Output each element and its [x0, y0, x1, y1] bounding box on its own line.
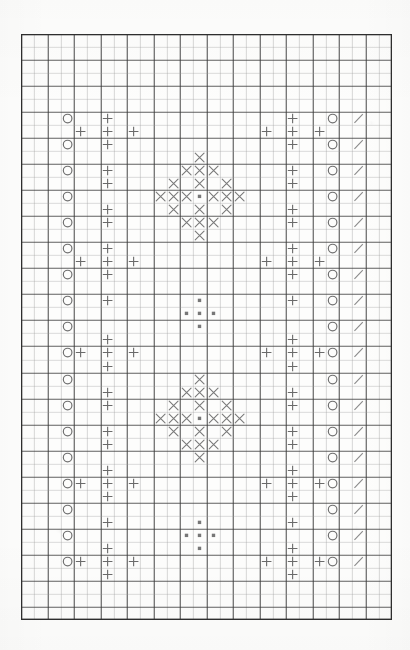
cross-symbol-cell[interactable]: [220, 203, 233, 216]
cross-symbol-cell[interactable]: [220, 177, 233, 190]
dot-symbol-cell[interactable]: [193, 190, 206, 203]
circle-symbol-cell[interactable]: [326, 164, 339, 177]
cross-symbol-cell[interactable]: [167, 203, 180, 216]
cross-symbol-cell[interactable]: [233, 190, 246, 203]
slash-symbol-cell[interactable]: [352, 242, 365, 255]
plus-symbol-cell[interactable]: [286, 242, 299, 255]
circle-symbol-cell[interactable]: [61, 294, 74, 307]
plus-symbol-cell[interactable]: [313, 477, 326, 490]
plus-symbol-cell[interactable]: [286, 177, 299, 190]
circle-symbol-cell[interactable]: [61, 190, 74, 203]
dot-symbol-cell[interactable]: [193, 294, 206, 307]
slash-symbol-cell[interactable]: [352, 373, 365, 386]
slash-symbol-cell[interactable]: [352, 503, 365, 516]
circle-symbol-cell[interactable]: [326, 399, 339, 412]
cross-symbol-cell[interactable]: [193, 386, 206, 399]
slash-symbol-cell[interactable]: [352, 399, 365, 412]
plus-symbol-cell[interactable]: [74, 255, 87, 268]
circle-symbol-cell[interactable]: [61, 112, 74, 125]
cross-symbol-cell[interactable]: [193, 229, 206, 242]
cross-symbol-cell[interactable]: [193, 216, 206, 229]
plus-symbol-cell[interactable]: [74, 477, 87, 490]
plus-symbol-cell[interactable]: [286, 268, 299, 281]
cross-symbol-cell[interactable]: [207, 412, 220, 425]
cross-symbol-cell[interactable]: [167, 399, 180, 412]
dot-symbol-cell[interactable]: [207, 529, 220, 542]
plus-symbol-cell[interactable]: [74, 555, 87, 568]
cross-symbol-cell[interactable]: [180, 438, 193, 451]
cross-symbol-cell[interactable]: [180, 190, 193, 203]
circle-symbol-cell[interactable]: [61, 216, 74, 229]
circle-symbol-cell[interactable]: [326, 320, 339, 333]
circle-symbol-cell[interactable]: [61, 268, 74, 281]
plus-symbol-cell[interactable]: [260, 255, 273, 268]
plus-symbol-cell[interactable]: [286, 164, 299, 177]
plus-symbol-cell[interactable]: [127, 255, 140, 268]
cross-symbol-cell[interactable]: [193, 151, 206, 164]
plus-symbol-cell[interactable]: [313, 555, 326, 568]
cross-symbol-cell[interactable]: [207, 190, 220, 203]
plus-symbol-cell[interactable]: [313, 255, 326, 268]
plus-symbol-cell[interactable]: [286, 255, 299, 268]
plus-symbol-cell[interactable]: [286, 125, 299, 138]
dot-symbol-cell[interactable]: [193, 307, 206, 320]
cross-symbol-cell[interactable]: [154, 190, 167, 203]
plus-symbol-cell[interactable]: [313, 346, 326, 359]
circle-symbol-cell[interactable]: [326, 503, 339, 516]
cross-symbol-cell[interactable]: [207, 386, 220, 399]
plus-symbol-cell[interactable]: [286, 333, 299, 346]
plus-symbol-cell[interactable]: [101, 542, 114, 555]
plus-symbol-cell[interactable]: [101, 112, 114, 125]
plus-symbol-cell[interactable]: [127, 125, 140, 138]
chart-grid-area[interactable]: [21, 34, 392, 620]
plus-symbol-cell[interactable]: [101, 464, 114, 477]
cross-symbol-cell[interactable]: [193, 399, 206, 412]
plus-symbol-cell[interactable]: [127, 555, 140, 568]
dot-symbol-cell[interactable]: [193, 516, 206, 529]
plus-symbol-cell[interactable]: [101, 399, 114, 412]
circle-symbol-cell[interactable]: [326, 529, 339, 542]
circle-symbol-cell[interactable]: [326, 477, 339, 490]
circle-symbol-cell[interactable]: [61, 555, 74, 568]
circle-symbol-cell[interactable]: [61, 138, 74, 151]
cross-symbol-cell[interactable]: [167, 412, 180, 425]
slash-symbol-cell[interactable]: [352, 529, 365, 542]
circle-symbol-cell[interactable]: [326, 555, 339, 568]
cross-symbol-cell[interactable]: [220, 190, 233, 203]
plus-symbol-cell[interactable]: [101, 516, 114, 529]
cross-symbol-cell[interactable]: [167, 190, 180, 203]
plus-symbol-cell[interactable]: [101, 386, 114, 399]
circle-symbol-cell[interactable]: [326, 346, 339, 359]
cross-symbol-cell[interactable]: [167, 425, 180, 438]
plus-symbol-cell[interactable]: [286, 477, 299, 490]
cross-symbol-cell[interactable]: [167, 177, 180, 190]
plus-symbol-cell[interactable]: [260, 125, 273, 138]
plus-symbol-cell[interactable]: [286, 542, 299, 555]
dot-symbol-cell[interactable]: [193, 529, 206, 542]
circle-symbol-cell[interactable]: [326, 425, 339, 438]
slash-symbol-cell[interactable]: [352, 216, 365, 229]
plus-symbol-cell[interactable]: [286, 346, 299, 359]
plus-symbol-cell[interactable]: [286, 386, 299, 399]
circle-symbol-cell[interactable]: [61, 346, 74, 359]
dot-symbol-cell[interactable]: [207, 307, 220, 320]
circle-symbol-cell[interactable]: [326, 216, 339, 229]
circle-symbol-cell[interactable]: [61, 373, 74, 386]
slash-symbol-cell[interactable]: [352, 138, 365, 151]
dot-symbol-cell[interactable]: [180, 529, 193, 542]
cross-symbol-cell[interactable]: [220, 399, 233, 412]
plus-symbol-cell[interactable]: [286, 464, 299, 477]
plus-symbol-cell[interactable]: [101, 164, 114, 177]
cross-symbol-cell[interactable]: [193, 203, 206, 216]
plus-symbol-cell[interactable]: [286, 294, 299, 307]
dot-symbol-cell[interactable]: [193, 542, 206, 555]
plus-symbol-cell[interactable]: [286, 216, 299, 229]
plus-symbol-cell[interactable]: [260, 346, 273, 359]
plus-symbol-cell[interactable]: [101, 425, 114, 438]
dot-symbol-cell[interactable]: [193, 412, 206, 425]
cross-symbol-cell[interactable]: [233, 412, 246, 425]
slash-symbol-cell[interactable]: [352, 294, 365, 307]
plus-symbol-cell[interactable]: [286, 490, 299, 503]
plus-symbol-cell[interactable]: [101, 125, 114, 138]
plus-symbol-cell[interactable]: [101, 346, 114, 359]
